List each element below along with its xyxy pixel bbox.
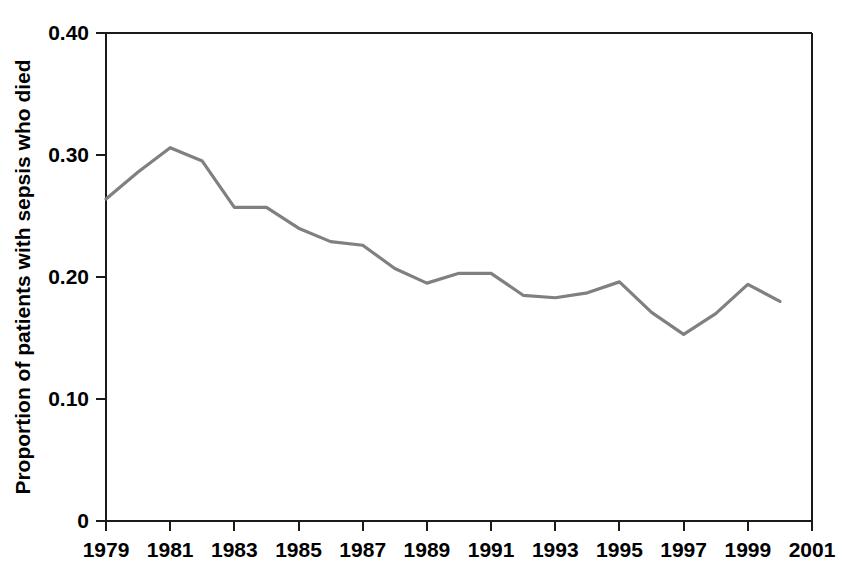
x-tick-label: 1981 [147,538,194,561]
x-tick-label: 1995 [596,538,643,561]
x-tick-label: 1997 [660,538,707,561]
y-axis-title: Proportion of patients with sepsis who d… [11,59,34,494]
y-tick-label: 0.40 [48,21,89,44]
x-tick-label: 1999 [724,538,771,561]
x-tick-label: 1983 [211,538,258,561]
x-tick-label: 2001 [789,538,836,561]
x-tick-label: 1987 [339,538,386,561]
x-tick-label: 1985 [275,538,322,561]
x-tick-label: 1991 [468,538,515,561]
chart-background [0,0,848,578]
x-tick-label: 1993 [532,538,579,561]
y-tick-label: 0 [77,509,89,532]
chart-container: 1979198119831985198719891991199319951997… [0,0,848,578]
y-tick-label: 0.30 [48,143,89,166]
x-tick-label: 1989 [404,538,451,561]
x-tick-label: 1979 [83,538,130,561]
y-tick-label: 0.10 [48,387,89,410]
y-tick-label: 0.20 [48,265,89,288]
line-chart: 1979198119831985198719891991199319951997… [0,0,848,578]
